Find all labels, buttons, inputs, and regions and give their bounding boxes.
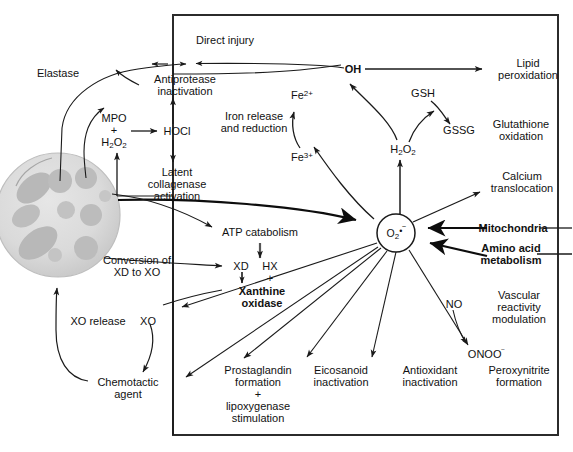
label-latent-line1: Latent — [162, 166, 193, 179]
label-hx: HX — [262, 260, 277, 273]
label-peroxynitrite-line2: formation — [496, 376, 542, 389]
label-antiprotease-line2: inactivation — [157, 85, 212, 98]
label-xd: XD — [233, 260, 248, 273]
label-iron-release-line2: and reduction — [221, 122, 288, 135]
label-direct-injury: Direct injury — [196, 34, 254, 47]
label-peroxynitrite-line1: Peroxynitrite — [488, 364, 549, 377]
gsh-to-gssg-arrow — [431, 101, 450, 124]
label-vascular-line3: modulation — [492, 313, 546, 326]
label-conversion-line1: Conversion of — [103, 254, 171, 267]
label-oh-radical: OH — [345, 63, 362, 76]
label-gsh: GSH — [411, 87, 435, 100]
amino-acid-to-superoxide-thick-arrow — [430, 243, 487, 256]
label-glutathione-line2: oxidation — [499, 130, 543, 143]
label-prostaglandin-line5: stimulation — [232, 412, 285, 425]
label-mpo: MPO — [101, 112, 126, 125]
label-calcium-line1: Calcium — [502, 170, 542, 183]
label-gssg: GSSG — [443, 124, 475, 137]
h2o2-to-gssg-arrow — [409, 111, 434, 142]
superoxide-to-eicosanoid-arrow — [307, 251, 387, 357]
label-prostaglandin-line2: formation — [235, 376, 281, 389]
xanthine-oxidase-to-xo-release-curve — [163, 290, 222, 305]
label-latent-line3: activation — [154, 190, 200, 203]
label-iron-release-line1: Iron release — [225, 110, 283, 123]
label-fe2: Fe2+ — [291, 88, 313, 102]
h2o2-to-oh-arrow — [350, 84, 397, 140]
label-chemotactic-line1: Chemotactic — [97, 376, 158, 389]
label-vascular-line1: Vascular — [498, 289, 540, 302]
superoxide-to-calcium-arrow — [413, 192, 480, 222]
label-xo: XO — [140, 315, 156, 328]
superoxide-to-chemotactic-arrow — [186, 247, 378, 377]
label-xanthine-line1: Xanthine — [239, 285, 285, 298]
diagram-canvas: Elastase Direct injury Antiprotease inac… — [0, 0, 573, 452]
xo-to-chemotactic-arrow — [143, 324, 153, 372]
label-calcium-line2: translocation — [491, 182, 553, 195]
label-antioxidant-line2: inactivation — [402, 376, 457, 389]
label-mitochondria: Mitochondria — [478, 222, 547, 235]
label-prostaglandin-line3: + — [255, 388, 261, 401]
label-vascular-line2: reactivity — [497, 301, 540, 314]
label-fe3: Fe3+ — [291, 150, 313, 164]
label-chemotactic-line2: agent — [114, 388, 142, 401]
label-h2o2-center: H2O2 — [390, 143, 415, 160]
label-eicosanoid-line2: inactivation — [313, 376, 368, 389]
label-hocl: HOCl — [164, 125, 191, 138]
superoxide-to-iron-arrow — [314, 147, 374, 219]
label-antioxidant-line1: Antioxidant — [403, 364, 457, 377]
label-prostaglandin-line4: lipoxygenase — [226, 400, 290, 413]
label-lipid-line2: peroxidation — [498, 69, 558, 82]
label-conversion-line2: XD to XO — [114, 266, 160, 279]
label-antiprotease-line1: Antiprotease — [154, 73, 216, 86]
label-xo-release: XO release — [70, 315, 125, 328]
label-amino-acid-line2: metabolism — [480, 254, 541, 267]
label-hx-plus: + — [267, 272, 273, 285]
label-lipid-line1: Lipid — [516, 57, 539, 70]
label-atp-catabolism: ATP catabolism — [222, 226, 298, 239]
chemotactic-to-cell-arrow — [56, 288, 88, 381]
label-onoo: ONOO‾ — [468, 347, 504, 361]
fe3-to-fe2-arrow — [293, 112, 300, 148]
label-prostaglandin-line1: Prostaglandin — [224, 364, 291, 377]
label-latent-line2: collagenase — [148, 178, 207, 191]
label-no: NO — [446, 298, 463, 311]
label-eicosanoid-line1: Eicosanoid — [314, 364, 368, 377]
label-superoxide: O2•‾ — [387, 225, 406, 244]
label-h2o2-mpo: H2O2 — [101, 136, 126, 153]
label-glutathione-line1: Glutathione — [493, 118, 549, 131]
label-amino-acid-line1: Amino acid — [481, 242, 540, 255]
superoxide-to-antioxidant-arrow — [372, 252, 396, 357]
label-xanthine-line2: oxidase — [242, 297, 283, 310]
label-mpo-plus: + — [111, 124, 117, 137]
label-elastase: Elastase — [37, 67, 79, 80]
